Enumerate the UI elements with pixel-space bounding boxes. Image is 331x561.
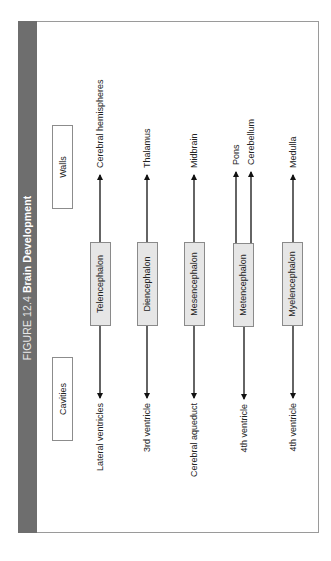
division-label: Metencephalon xyxy=(238,254,248,316)
cavity-label: Cerebral aqueduct xyxy=(189,403,199,477)
wall-label: Cerebral hemispheres xyxy=(95,79,105,168)
wall-label: Cerebellum xyxy=(246,119,256,165)
cavity-label: 4th ventricle xyxy=(288,403,298,452)
wall-label: Pons xyxy=(231,144,241,165)
wall-label: Thalamus xyxy=(142,128,152,168)
division-label: Mesencephalon xyxy=(189,252,199,316)
cavity-label: 4th ventricle xyxy=(239,404,249,453)
wall-label: Medulla xyxy=(288,136,298,168)
cavity-label: 3rd ventricle xyxy=(142,403,152,452)
division-label: Diencephalon xyxy=(142,256,152,311)
division-label: Telencephalon xyxy=(95,255,105,313)
wall-label: Midbrain xyxy=(189,133,199,168)
cavity-label: Lateral ventricles xyxy=(95,403,105,471)
division-label: Myelencephalon xyxy=(287,251,297,317)
